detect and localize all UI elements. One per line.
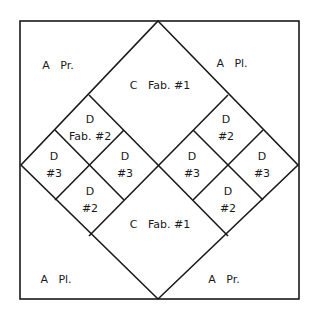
piece-label-d3-right-outer: D #3 — [254, 148, 270, 182]
piece-label-d2-right-bottom: D #2 — [220, 183, 236, 217]
piece-label-a-pl-bottom-left: A Pl. — [40, 271, 71, 288]
piece-label-a-pr-bottom-right: A Pr. — [208, 271, 239, 288]
quilt-block-diagram: A Pr. C Fab. #1 A Pl. D Fab. #2 D #3 D #… — [0, 0, 316, 325]
piece-label-c-fab1-bottom: C Fab. #1 — [130, 216, 190, 233]
piece-label-a-pr-top-left: A Pr. — [42, 57, 73, 74]
piece-label-d3-left-inner: D #3 — [117, 148, 133, 182]
piece-label-d2-left-bottom: D #2 — [82, 183, 98, 217]
piece-label-d2-right-top: D #2 — [218, 111, 234, 145]
piece-label-d3-right-inner: D #3 — [184, 148, 200, 182]
piece-label-d-fab2: D Fab. #2 — [69, 111, 111, 145]
piece-label-a-pl-top-right: A Pl. — [216, 55, 247, 72]
piece-label-d3-left-outer: D #3 — [46, 148, 62, 182]
piece-label-c-fab1-top: C Fab. #1 — [130, 77, 190, 94]
